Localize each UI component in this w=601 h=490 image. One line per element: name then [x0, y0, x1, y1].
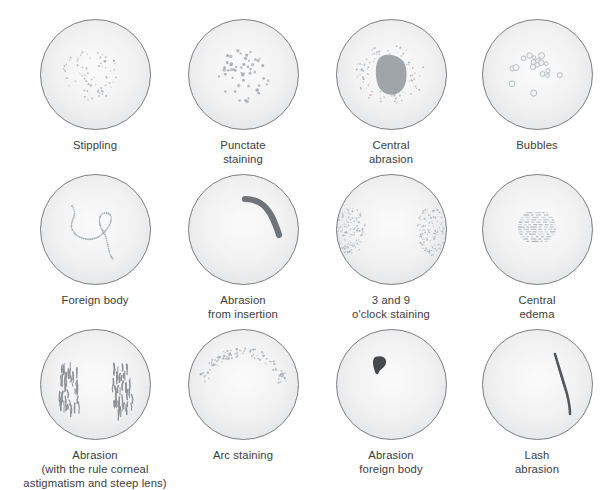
caption-line: abrasion — [318, 152, 464, 166]
cornea-diagram-central-abrasion — [335, 18, 448, 131]
panel-bubbles: Bubbles — [464, 18, 601, 152]
panel-three-and-nine-oclock-staining: 3 and 9o'clock staining — [318, 173, 464, 321]
panel-caption-abrasion-foreign-body: Abrasionforeign body — [318, 448, 464, 476]
caption-line: Arc staining — [170, 448, 316, 462]
cornea-diagram-abrasion-from-insertion — [187, 173, 300, 286]
caption-line: foreign body — [318, 462, 464, 476]
panel-caption-three-and-nine-oclock-staining: 3 and 9o'clock staining — [318, 293, 464, 321]
panel-abrasion-astigmatism: Abrasion(with the rule cornealastigmatis… — [22, 328, 168, 490]
panel-central-abrasion: Centralabrasion — [318, 18, 464, 166]
cornea-diagram-bubbles — [481, 18, 594, 131]
cornea-diagram-abrasion-astigmatism — [39, 328, 152, 441]
caption-line: staining — [170, 152, 316, 166]
caption-line: abrasion — [464, 462, 601, 476]
caption-line: Abrasion — [170, 293, 316, 307]
cornea-diagram-foreign-body — [39, 173, 152, 286]
cornea-diagram-stippling — [39, 18, 152, 131]
panel-caption-lash-abrasion: Lashabrasion — [464, 448, 601, 476]
panel-central-edema: Centraledema — [464, 173, 601, 321]
panel-caption-central-edema: Centraledema — [464, 293, 601, 321]
panel-foreign-body: Foreign body — [22, 173, 168, 307]
panel-caption-foreign-body: Foreign body — [22, 293, 168, 307]
panel-caption-punctate-staining: Punctatestaining — [170, 138, 316, 166]
caption-line: Punctate — [170, 138, 316, 152]
cornea-diagram-lash-abrasion — [481, 328, 594, 441]
caption-line: from insertion — [170, 307, 316, 321]
caption-line: Central — [464, 293, 601, 307]
caption-line: Abrasion — [22, 448, 168, 462]
cornea-diagram-arc-staining — [187, 328, 300, 441]
panel-caption-arc-staining: Arc staining — [170, 448, 316, 462]
caption-line: astigmatism and steep lens) — [22, 476, 168, 490]
panel-lash-abrasion: Lashabrasion — [464, 328, 601, 476]
panel-abrasion-from-insertion: Abrasionfrom insertion — [170, 173, 316, 321]
panel-stippling: Stippling — [22, 18, 168, 152]
caption-line: Foreign body — [22, 293, 168, 307]
cornea-diagram-punctate-staining — [187, 18, 300, 131]
panel-caption-abrasion-astigmatism: Abrasion(with the rule cornealastigmatis… — [22, 448, 168, 490]
panel-arc-staining: Arc staining — [170, 328, 316, 462]
panel-caption-stippling: Stippling — [22, 138, 168, 152]
panel-abrasion-foreign-body: Abrasionforeign body — [318, 328, 464, 476]
cornea-diagram-three-and-nine-oclock-staining — [335, 173, 448, 286]
caption-line: o'clock staining — [318, 307, 464, 321]
caption-line: 3 and 9 — [318, 293, 464, 307]
cornea-diagram-abrasion-foreign-body — [335, 328, 448, 441]
caption-line: Bubbles — [464, 138, 601, 152]
panel-caption-abrasion-from-insertion: Abrasionfrom insertion — [170, 293, 316, 321]
cornea-diagram-central-edema — [481, 173, 594, 286]
panel-caption-central-abrasion: Centralabrasion — [318, 138, 464, 166]
caption-line: edema — [464, 307, 601, 321]
caption-line: Central — [318, 138, 464, 152]
caption-line: Stippling — [22, 138, 168, 152]
panel-punctate-staining: Punctatestaining — [170, 18, 316, 166]
caption-line: Abrasion — [318, 448, 464, 462]
caption-line: (with the rule corneal — [22, 462, 168, 476]
panel-caption-bubbles: Bubbles — [464, 138, 601, 152]
caption-line: Lash — [464, 448, 601, 462]
